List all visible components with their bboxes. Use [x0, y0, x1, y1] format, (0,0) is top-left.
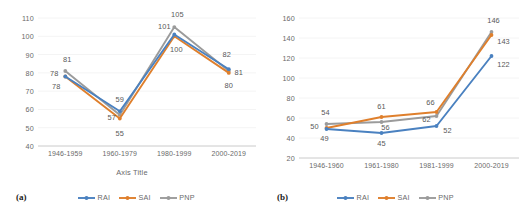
chart-panel-a: 405060708090100110 1946-19591960-1979198… [0, 0, 264, 218]
x-axis-tick-label: 1980-1999 [157, 150, 191, 157]
data-point-marker [118, 109, 122, 113]
data-point-marker [380, 131, 384, 135]
data-point-marker [227, 67, 231, 71]
legend-swatch-icon [119, 194, 136, 202]
y-axis-tick-label: 50 [0, 123, 34, 132]
data-point-marker [63, 75, 67, 79]
data-value-label: 143 [497, 37, 510, 46]
panel-tag-b: (b) [277, 192, 288, 202]
y-axis-tick-label: 100 [0, 32, 34, 41]
line-series-svg-a [0, 0, 264, 218]
data-point-marker [380, 115, 384, 119]
legend-label: PNP [438, 193, 453, 202]
data-value-label: 100 [170, 45, 183, 54]
legend-swatch-icon [160, 194, 177, 202]
data-value-label: 49 [320, 134, 328, 143]
legend-label: SAI [398, 193, 410, 202]
series-line-sai [65, 36, 229, 118]
data-value-label: 59 [116, 95, 124, 104]
x-axis-tick-label: 1981-1999 [419, 162, 453, 169]
series-line-sai [327, 35, 492, 128]
data-value-label: 50 [310, 122, 318, 131]
y-axis-tick-label: 40 [0, 142, 34, 151]
y-axis-tick-label: 60 [265, 114, 295, 123]
legend-item-sai[interactable]: SAI [378, 193, 410, 202]
series-line-pnp [65, 27, 229, 115]
y-axis-tick-label: 80 [0, 68, 34, 77]
data-point-marker [490, 54, 494, 58]
data-value-label: 81 [63, 55, 71, 64]
y-axis-tick-label: 160 [265, 14, 295, 23]
data-point-marker [325, 122, 329, 126]
data-value-label: 52 [443, 126, 451, 135]
line-series-svg-b [265, 0, 529, 218]
data-value-label: 62 [422, 115, 430, 124]
legend-item-sai[interactable]: SAI [119, 193, 151, 202]
data-value-label: 78 [52, 81, 60, 90]
y-axis-tick-label: 60 [0, 105, 34, 114]
legend-item-pnp[interactable]: PNP [160, 193, 195, 202]
data-point-marker [172, 25, 176, 29]
data-point-marker [490, 33, 494, 37]
data-point-marker [435, 124, 439, 128]
x-axis-tick-label: 1946-1960 [309, 162, 343, 169]
data-point-marker [435, 110, 439, 114]
series-line-rai [327, 56, 492, 133]
data-value-label: 54 [321, 108, 329, 117]
legend-a: RAISAIPNP [78, 193, 195, 202]
data-point-marker [172, 33, 176, 37]
y-axis-tick-label: 90 [0, 50, 34, 59]
data-value-label: 78 [50, 68, 58, 77]
legend-label: RAI [98, 193, 111, 202]
legend-swatch-icon [378, 194, 395, 202]
y-axis-tick-label: 110 [0, 14, 34, 23]
y-axis-tick-label: 40 [265, 134, 295, 143]
data-value-label: 80 [225, 80, 233, 89]
panel-tag-a: (a) [16, 192, 27, 202]
legend-label: SAI [139, 193, 151, 202]
legend-b: RAISAIPNP [337, 193, 454, 202]
chart-panel-b: 20406080100120140160 1946-19601961-19801… [265, 0, 529, 218]
data-value-label: 66 [426, 98, 434, 107]
data-value-label: 105 [171, 10, 184, 19]
data-point-marker [63, 69, 67, 73]
y-axis-tick-label: 80 [265, 94, 295, 103]
y-axis-tick-label: 100 [265, 74, 295, 83]
x-axis-tick-label: 1961-1980 [364, 162, 398, 169]
x-axis-tick-label: 2000-2019 [212, 150, 246, 157]
figure-two-line-charts: 405060708090100110 1946-19591960-1979198… [0, 0, 529, 218]
data-value-label: 61 [377, 102, 385, 111]
legend-swatch-icon [419, 194, 436, 202]
x-axis-title-a: Axis Title [0, 168, 264, 177]
data-value-label: 55 [116, 128, 124, 137]
data-value-label: 81 [235, 68, 243, 77]
data-point-marker [325, 127, 329, 131]
data-value-label: 45 [377, 139, 385, 148]
x-axis-tick-label: 1946-1959 [48, 150, 82, 157]
y-axis-tick-label: 120 [265, 54, 295, 63]
data-value-label: 101 [158, 21, 171, 30]
x-axis-tick-label: 1960-1979 [103, 150, 137, 157]
legend-item-rai[interactable]: RAI [337, 193, 369, 202]
legend-swatch-icon [78, 194, 95, 202]
data-point-marker [435, 114, 439, 118]
plot-area-a [0, 0, 264, 218]
y-axis-tick-label: 20 [265, 154, 295, 163]
data-value-label: 57 [108, 112, 116, 121]
x-axis-tick-label: 2000-2019 [474, 162, 508, 169]
y-axis-tick-label: 70 [0, 87, 34, 96]
data-value-label: 122 [497, 60, 510, 69]
legend-item-pnp[interactable]: PNP [419, 193, 454, 202]
plot-area-b [265, 0, 529, 218]
y-axis-tick-label: 140 [265, 34, 295, 43]
data-point-marker [227, 71, 231, 75]
data-value-label: 82 [223, 50, 231, 59]
legend-swatch-icon [337, 194, 354, 202]
legend-label: RAI [357, 193, 370, 202]
data-point-marker [118, 117, 122, 121]
legend-label: PNP [179, 193, 194, 202]
data-value-label: 146 [487, 16, 500, 25]
data-value-label: 56 [381, 123, 389, 132]
legend-item-rai[interactable]: RAI [78, 193, 110, 202]
